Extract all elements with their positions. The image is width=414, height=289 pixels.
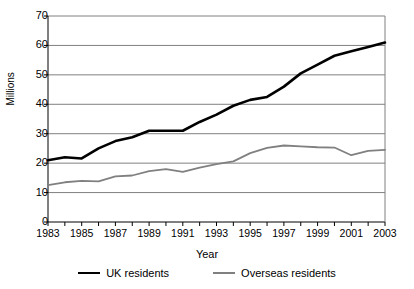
- x-axis-tick-label: 1985: [66, 228, 98, 239]
- legend-label-uk: UK residents: [106, 267, 169, 279]
- x-axis-tick-label: 1983: [32, 228, 64, 239]
- x-axis-tick-label: 1997: [268, 228, 300, 239]
- x-axis-tick-label: 1987: [99, 228, 131, 239]
- line-chart: Millions 706050403020100 198319851987198…: [0, 0, 414, 289]
- x-axis-tick-label: 2003: [369, 228, 401, 239]
- legend-item-overseas-residents: Overseas residents: [213, 267, 336, 279]
- plot-area: [0, 0, 414, 289]
- legend-line-icon-uk: [78, 272, 100, 274]
- series-line-uk-residents: [48, 42, 385, 160]
- x-axis-tick-label: 1989: [133, 228, 165, 239]
- chart-legend: UK residents Overseas residents: [0, 267, 414, 279]
- legend-label-overseas: Overseas residents: [241, 267, 336, 279]
- x-axis-tick-label: 1995: [234, 228, 266, 239]
- x-axis-tick-label: 1993: [201, 228, 233, 239]
- x-axis-tick-label: 1999: [302, 228, 334, 239]
- x-axis-tick-label: 2001: [335, 228, 367, 239]
- legend-item-uk-residents: UK residents: [78, 267, 169, 279]
- x-axis-label: Year: [0, 248, 414, 260]
- legend-line-icon-overseas: [213, 272, 235, 274]
- series-line-overseas-residents: [48, 145, 385, 185]
- x-axis-tick-label: 1991: [167, 228, 199, 239]
